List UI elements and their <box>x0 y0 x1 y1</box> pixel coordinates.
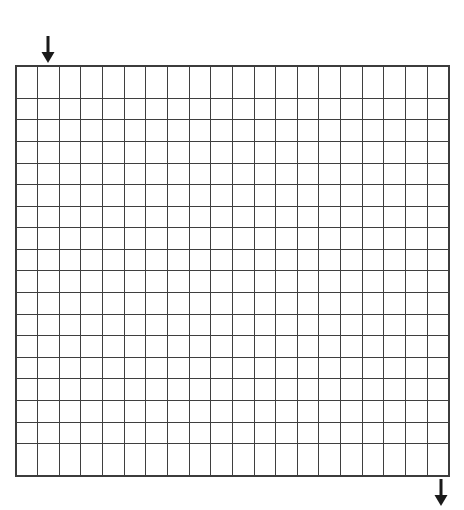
grid-cell[interactable] <box>81 163 103 185</box>
grid-cell[interactable] <box>16 206 38 228</box>
grid-cell[interactable] <box>81 228 103 250</box>
grid-cell[interactable] <box>427 98 449 120</box>
grid-cell[interactable] <box>189 163 211 185</box>
grid-cell[interactable] <box>103 422 125 444</box>
grid-cell[interactable] <box>254 66 276 98</box>
grid-cell[interactable] <box>167 293 189 315</box>
grid-cell[interactable] <box>406 400 428 422</box>
grid-cell[interactable] <box>146 422 168 444</box>
grid-cell[interactable] <box>232 120 254 142</box>
grid-cell[interactable] <box>189 357 211 379</box>
grid-cell[interactable] <box>81 271 103 293</box>
grid-cell[interactable] <box>406 336 428 358</box>
grid-cell[interactable] <box>16 98 38 120</box>
grid-cell[interactable] <box>167 98 189 120</box>
grid-cell[interactable] <box>341 336 363 358</box>
grid-cell[interactable] <box>427 444 449 476</box>
grid-cell[interactable] <box>427 379 449 401</box>
grid-cell[interactable] <box>167 206 189 228</box>
grid-cell[interactable] <box>341 314 363 336</box>
grid-cell[interactable] <box>189 293 211 315</box>
grid-cell[interactable] <box>167 271 189 293</box>
grid-cell[interactable] <box>211 185 233 207</box>
grid-cell[interactable] <box>406 185 428 207</box>
grid-cell[interactable] <box>384 120 406 142</box>
grid-cell[interactable] <box>319 293 341 315</box>
grid-cell[interactable] <box>38 379 60 401</box>
grid-cell[interactable] <box>276 422 298 444</box>
grid-cell[interactable] <box>297 357 319 379</box>
grid-cell[interactable] <box>16 422 38 444</box>
grid-cell[interactable] <box>341 206 363 228</box>
grid-cell[interactable] <box>189 66 211 98</box>
grid-cell[interactable] <box>319 206 341 228</box>
grid-cell[interactable] <box>167 228 189 250</box>
grid-cell[interactable] <box>362 163 384 185</box>
grid-cell[interactable] <box>232 422 254 444</box>
grid-cell[interactable] <box>146 293 168 315</box>
grid-cell[interactable] <box>38 98 60 120</box>
grid-cell[interactable] <box>341 422 363 444</box>
grid-cell[interactable] <box>384 357 406 379</box>
grid-cell[interactable] <box>341 98 363 120</box>
grid-cell[interactable] <box>341 142 363 164</box>
grid-cell[interactable] <box>406 142 428 164</box>
grid-cell[interactable] <box>103 185 125 207</box>
grid-cell[interactable] <box>167 336 189 358</box>
grid-cell[interactable] <box>59 142 81 164</box>
grid-cell[interactable] <box>427 293 449 315</box>
grid-cell[interactable] <box>427 400 449 422</box>
grid-cell[interactable] <box>341 163 363 185</box>
grid-cell[interactable] <box>362 444 384 476</box>
grid-cell[interactable] <box>189 444 211 476</box>
grid-cell[interactable] <box>319 98 341 120</box>
grid-cell[interactable] <box>124 185 146 207</box>
grid-cell[interactable] <box>146 444 168 476</box>
grid-cell[interactable] <box>16 271 38 293</box>
grid-cell[interactable] <box>16 379 38 401</box>
grid-cell[interactable] <box>16 400 38 422</box>
grid-cell[interactable] <box>254 314 276 336</box>
grid-cell[interactable] <box>124 379 146 401</box>
grid-cell[interactable] <box>319 336 341 358</box>
grid-cell[interactable] <box>406 120 428 142</box>
grid-cell[interactable] <box>384 293 406 315</box>
grid-cell[interactable] <box>81 120 103 142</box>
grid-cell[interactable] <box>38 228 60 250</box>
grid-cell[interactable] <box>232 98 254 120</box>
grid-cell[interactable] <box>362 293 384 315</box>
grid-cell[interactable] <box>59 271 81 293</box>
grid-cell[interactable] <box>341 400 363 422</box>
grid-cell[interactable] <box>254 357 276 379</box>
grid-cell[interactable] <box>16 66 38 98</box>
grid-cell[interactable] <box>297 66 319 98</box>
grid-cell[interactable] <box>341 293 363 315</box>
grid-cell[interactable] <box>297 336 319 358</box>
grid-cell[interactable] <box>59 336 81 358</box>
grid-cell[interactable] <box>362 357 384 379</box>
grid-cell[interactable] <box>103 293 125 315</box>
grid-cell[interactable] <box>189 400 211 422</box>
grid-cell[interactable] <box>103 249 125 271</box>
grid-cell[interactable] <box>211 206 233 228</box>
grid-cell[interactable] <box>146 98 168 120</box>
grid-cell[interactable] <box>384 336 406 358</box>
grid-cell[interactable] <box>427 185 449 207</box>
grid-cell[interactable] <box>341 249 363 271</box>
grid-cell[interactable] <box>427 314 449 336</box>
grid-cell[interactable] <box>297 206 319 228</box>
grid-cell[interactable] <box>38 142 60 164</box>
grid-cell[interactable] <box>384 249 406 271</box>
grid-cell[interactable] <box>59 422 81 444</box>
grid-cell[interactable] <box>146 120 168 142</box>
grid-cell[interactable] <box>276 400 298 422</box>
grid-cell[interactable] <box>38 163 60 185</box>
grid-cell[interactable] <box>406 98 428 120</box>
grid-cell[interactable] <box>189 206 211 228</box>
grid-cell[interactable] <box>81 357 103 379</box>
grid-cell[interactable] <box>232 228 254 250</box>
grid-cell[interactable] <box>38 271 60 293</box>
grid-cell[interactable] <box>254 228 276 250</box>
grid-cell[interactable] <box>211 314 233 336</box>
grid-cell[interactable] <box>319 400 341 422</box>
